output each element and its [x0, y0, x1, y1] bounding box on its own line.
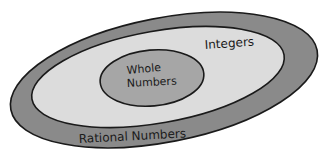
number-sets-diagram: Integers Whole Numbers Rational Numbers — [0, 0, 328, 159]
whole-numbers-label-line2: Numbers — [126, 74, 177, 90]
